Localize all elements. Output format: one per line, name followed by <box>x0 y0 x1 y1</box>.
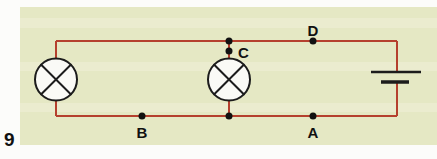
figure-number: 9 <box>4 130 15 149</box>
node-label-a: A <box>308 124 319 141</box>
panel-texture-band <box>20 18 437 28</box>
node-dot-c <box>226 48 233 55</box>
circuit-diagram: D C B A <box>0 0 437 159</box>
node-dot-b <box>139 113 146 120</box>
node-label-d: D <box>308 22 319 39</box>
lamp-icon-left <box>35 59 77 101</box>
node-label-b: B <box>137 124 148 141</box>
node-label-c: C <box>238 44 249 61</box>
lamp-icon-middle <box>208 59 250 101</box>
node-dot-a <box>310 113 317 120</box>
junction-dot-bottom-middle <box>226 113 233 120</box>
circuit-figure: D C B A 9 <box>0 0 437 159</box>
junction-dot-top-middle <box>226 38 233 45</box>
